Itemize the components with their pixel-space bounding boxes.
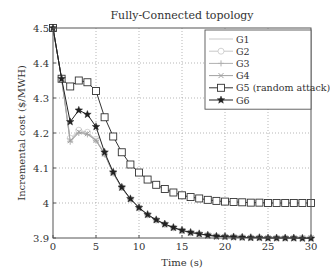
square-marker: [213, 197, 220, 204]
y-tick-label: 4.2: [33, 128, 49, 139]
square-marker: [218, 84, 225, 91]
x-axis-label: Time (s): [161, 257, 202, 268]
square-marker: [67, 83, 74, 90]
square-marker: [170, 189, 177, 196]
square-marker: [161, 186, 168, 193]
square-marker: [299, 200, 306, 207]
y-tick-label: 3.9: [33, 233, 49, 244]
chart-title: Fully-Connected topology: [110, 9, 254, 22]
square-marker: [196, 195, 203, 202]
legend-label: G1: [236, 34, 250, 45]
y-tick-label: 4.1: [33, 163, 49, 174]
square-marker: [179, 192, 186, 199]
star-marker: [75, 106, 83, 113]
y-axis-label: Incremental cost ($/MWH): [16, 65, 27, 201]
square-marker: [247, 199, 254, 206]
star-marker: [92, 123, 100, 130]
square-marker: [290, 200, 297, 207]
square-marker: [256, 199, 263, 206]
square-marker: [204, 196, 211, 203]
x-tick-label: 5: [93, 241, 99, 252]
square-marker: [282, 200, 289, 207]
square-marker: [110, 133, 117, 140]
x-tick-label: 0: [50, 241, 56, 252]
legend-label: G2: [236, 46, 250, 57]
legend-label: G3: [236, 58, 250, 69]
square-marker: [75, 77, 82, 84]
legend: G1G2G3G4G5 (random attack)G6: [205, 30, 330, 109]
x-tick-label: 10: [133, 241, 146, 252]
square-marker: [84, 79, 91, 86]
chart-container: Fully-Connected topology 051015202530 3.…: [0, 0, 330, 280]
x-tick-label: 20: [219, 241, 232, 252]
y-tick-label: 4.5: [33, 23, 49, 34]
y-tick-label: 4.4: [33, 58, 49, 69]
square-marker: [144, 176, 151, 183]
square-marker: [93, 88, 100, 95]
square-marker: [222, 198, 229, 205]
square-marker: [136, 169, 143, 176]
square-marker: [187, 194, 194, 201]
square-marker: [127, 161, 134, 168]
legend-label: G6: [236, 95, 250, 106]
x-tick-label: 25: [262, 241, 275, 252]
square-marker: [273, 200, 280, 207]
star-marker: [84, 110, 92, 117]
square-marker: [239, 199, 246, 206]
line-chart: Fully-Connected topology 051015202530 3.…: [0, 0, 330, 280]
x-tick-label: 30: [305, 241, 318, 252]
square-marker: [118, 149, 125, 156]
y-tick-label: 4: [43, 198, 49, 209]
y-tick-label: 4.3: [33, 93, 49, 104]
square-marker: [101, 114, 108, 121]
square-marker: [153, 181, 160, 188]
square-marker: [265, 200, 272, 207]
circle-marker: [218, 48, 224, 54]
legend-label: G4: [236, 70, 250, 81]
square-marker: [230, 198, 237, 205]
legend-label: G5 (random attack): [236, 82, 330, 93]
x-tick-label: 15: [176, 241, 189, 252]
